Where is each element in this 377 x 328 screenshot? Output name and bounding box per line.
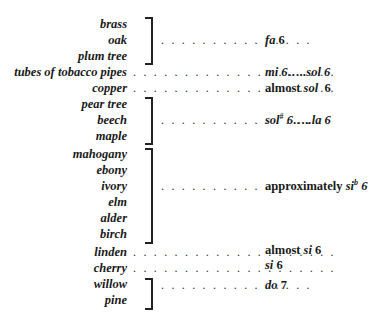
label-oak: oak: [108, 33, 127, 48]
note: si: [304, 243, 312, 257]
qualifier: almost: [265, 243, 300, 257]
value-linden: almost si 6: [265, 243, 321, 258]
value-tubes: mi 6…..sol 6: [265, 65, 330, 80]
label-ivory: ivory: [101, 179, 127, 194]
note: si: [265, 258, 273, 272]
note-range: 6…..la 6: [284, 113, 331, 127]
bracket-group-2: [145, 97, 153, 145]
note: mi 6…..sol 6: [265, 65, 330, 79]
note: do: [265, 278, 278, 292]
label-alder: alder: [101, 211, 127, 226]
label-plum-tree: plum tree: [78, 49, 127, 64]
label-tubes: tubes of tobacco pipes: [14, 65, 127, 80]
bracket-group-3: [145, 148, 153, 244]
value-cherry: si 6: [265, 258, 283, 273]
value-group-3: approximately sib 6: [265, 179, 367, 194]
label-maple: maple: [96, 129, 127, 144]
value-copper: almost sol 6: [265, 81, 331, 96]
note: fa: [265, 33, 275, 47]
octave: 6: [358, 179, 367, 193]
label-linden: linden: [94, 245, 127, 260]
octave: 7: [281, 278, 287, 292]
label-pear-tree: pear tree: [82, 97, 127, 112]
value-group-4: do 7: [265, 278, 287, 293]
leader-dots: . . . . . . . . . . . . . . .: [161, 33, 312, 48]
note: sol: [265, 113, 280, 127]
value-group-2: sol# 6…..la 6: [265, 113, 331, 128]
leader-dots: . . . . . . . . . . . . . . .: [161, 278, 312, 293]
octave: 6: [324, 81, 330, 95]
octave: 6: [276, 258, 282, 272]
value-group-1: fa 6: [265, 33, 285, 48]
note: si: [346, 179, 354, 193]
octave: 6: [315, 243, 321, 257]
label-willow: willow: [94, 277, 127, 292]
label-elm: elm: [108, 195, 127, 210]
qualifier: approximately: [265, 179, 343, 193]
bracket-group-1: [145, 17, 153, 65]
octave: 6: [279, 33, 285, 47]
leader-dots: . . . . . . . . . . . . . . . . . . . .: [133, 261, 336, 276]
note: sol: [304, 81, 319, 95]
label-ebony: ebony: [96, 163, 127, 178]
label-copper: copper: [92, 81, 127, 96]
label-birch: birch: [100, 227, 127, 242]
bracket-group-4: [145, 278, 153, 310]
label-beech: beech: [97, 113, 127, 128]
label-pine: pine: [105, 293, 127, 308]
qualifier: almost: [265, 81, 300, 95]
label-cherry: cherry: [94, 261, 127, 276]
label-mahogany: mahogany: [73, 147, 127, 162]
label-brass: brass: [100, 17, 127, 32]
